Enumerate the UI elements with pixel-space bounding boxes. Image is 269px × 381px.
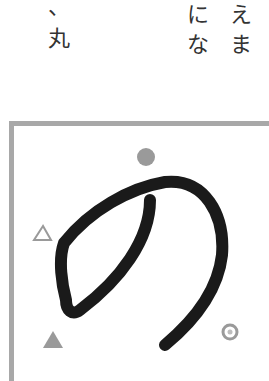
double-circle-icon <box>223 325 237 339</box>
filled-triangle-icon <box>43 331 63 348</box>
filled-circle-icon <box>137 148 155 166</box>
no-brush-stroke <box>61 182 222 345</box>
outline-triangle-icon <box>34 226 51 240</box>
